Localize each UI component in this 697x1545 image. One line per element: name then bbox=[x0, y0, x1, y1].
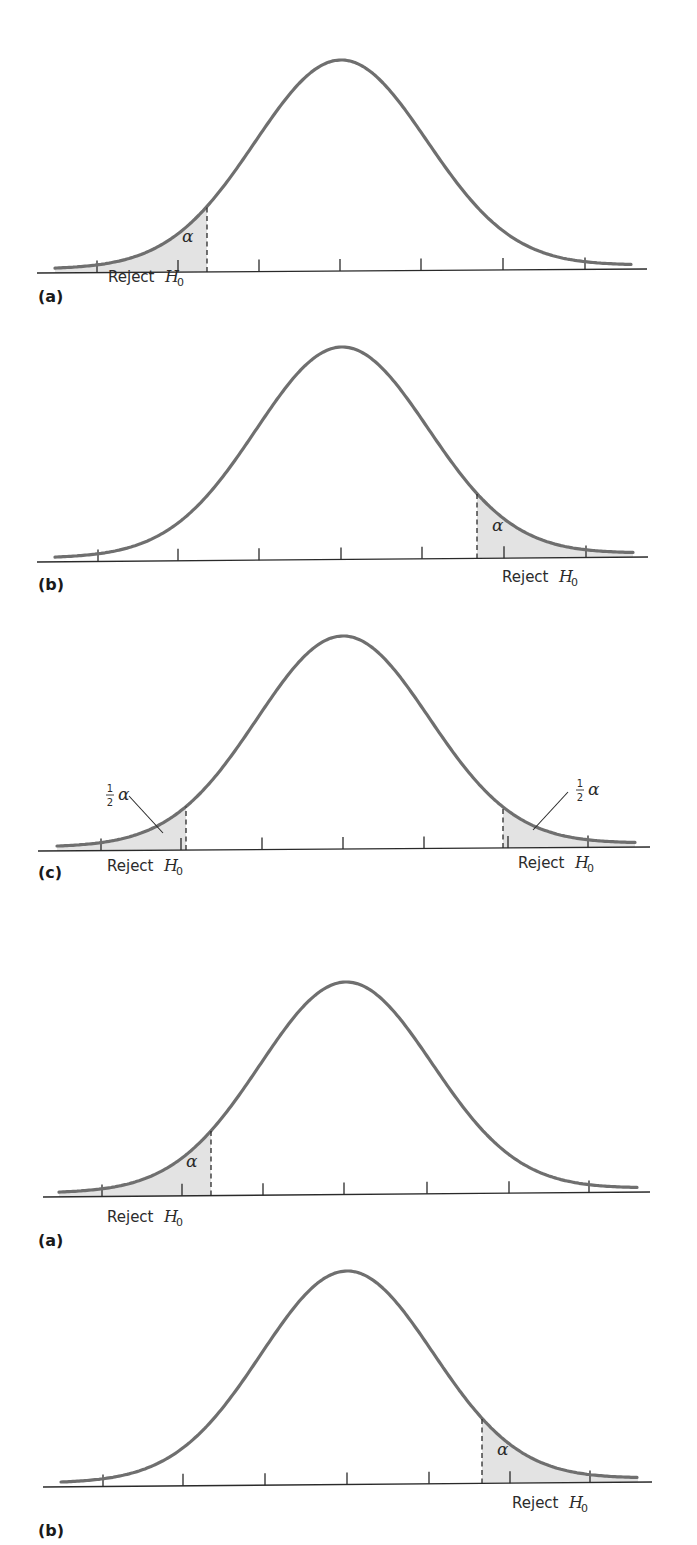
svg-text:1: 1 bbox=[107, 783, 113, 794]
svg-text:Reject: Reject bbox=[512, 1494, 559, 1512]
annotation-leader-line bbox=[533, 792, 568, 830]
svg-text:Reject: Reject bbox=[108, 268, 155, 286]
reject-h0-label: RejectH0 bbox=[512, 1493, 588, 1515]
alpha-label: α bbox=[492, 515, 504, 535]
panel-label: (a) bbox=[38, 1231, 63, 1250]
panel-label: (b) bbox=[38, 575, 64, 594]
alpha-label: α bbox=[497, 1439, 509, 1459]
reject-h0-label: RejectH0 bbox=[107, 1207, 183, 1229]
svg-text:α: α bbox=[588, 779, 600, 799]
svg-text:0: 0 bbox=[177, 276, 184, 289]
panel-4: αRejectH0(a) bbox=[38, 982, 650, 1250]
half-alpha-label: 12α bbox=[576, 778, 600, 803]
svg-text:2: 2 bbox=[107, 797, 113, 808]
normal-curve bbox=[59, 982, 637, 1192]
reject-h0-label: RejectH0 bbox=[518, 853, 594, 875]
normal-curve bbox=[61, 1271, 637, 1482]
panel-label: (a) bbox=[38, 287, 63, 306]
hypothesis-test-figure: αRejectH0(a)αRejectH0(b)12α12αRejectH0Re… bbox=[0, 0, 697, 1545]
x-axis bbox=[37, 557, 648, 562]
reject-h0-label: RejectH0 bbox=[108, 267, 184, 289]
svg-text:2: 2 bbox=[577, 792, 583, 803]
panel-1: αRejectH0(a) bbox=[37, 60, 647, 306]
svg-text:Reject: Reject bbox=[107, 1208, 154, 1226]
panel-5: αRejectH0(b) bbox=[38, 1271, 652, 1540]
panel-3: 12α12αRejectH0RejectH0(c) bbox=[38, 636, 650, 882]
panel-label: (c) bbox=[38, 863, 62, 882]
svg-text:α: α bbox=[118, 784, 130, 804]
svg-text:Reject: Reject bbox=[107, 857, 154, 875]
svg-text:Reject: Reject bbox=[518, 854, 565, 872]
alpha-label: α bbox=[186, 1151, 198, 1171]
normal-curve bbox=[57, 636, 635, 846]
svg-text:0: 0 bbox=[587, 862, 594, 875]
svg-text:0: 0 bbox=[176, 865, 183, 878]
svg-text:0: 0 bbox=[581, 1502, 588, 1515]
annotation-leader-line bbox=[129, 796, 163, 833]
svg-text:1: 1 bbox=[577, 778, 583, 789]
panel-2: αRejectH0(b) bbox=[37, 347, 648, 594]
svg-text:0: 0 bbox=[571, 576, 578, 589]
reject-h0-label: RejectH0 bbox=[502, 567, 578, 589]
reject-h0-label: RejectH0 bbox=[107, 856, 183, 878]
normal-curve bbox=[55, 60, 631, 268]
svg-text:0: 0 bbox=[176, 1216, 183, 1229]
alpha-label: α bbox=[182, 226, 194, 246]
normal-curve bbox=[55, 347, 633, 557]
panel-label: (b) bbox=[38, 1521, 64, 1540]
svg-text:Reject: Reject bbox=[502, 568, 549, 586]
half-alpha-label: 12α bbox=[106, 783, 130, 808]
